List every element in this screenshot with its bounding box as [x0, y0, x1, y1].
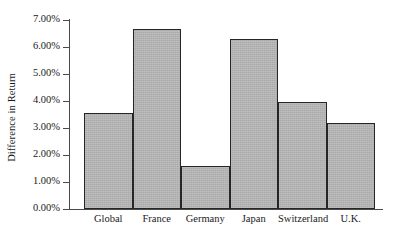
x-axis-label: Germany — [181, 213, 230, 226]
y-tick-label: 6.00% — [0, 41, 60, 52]
bar-chart: Difference in Return 7.00%6.00%5.00%4.00… — [0, 0, 398, 235]
bar-texture — [328, 124, 375, 208]
bar — [278, 102, 327, 209]
plot-area — [69, 20, 382, 209]
bar-texture — [134, 30, 181, 208]
x-axis-label: France — [133, 213, 182, 226]
bar — [327, 123, 376, 209]
y-tick-mark — [63, 209, 69, 210]
x-axis-line — [69, 209, 383, 210]
x-axis-label: Switzerland — [278, 213, 327, 226]
bar-texture — [279, 103, 326, 208]
bar — [181, 166, 230, 209]
y-axis-title: Difference in Return — [0, 0, 22, 235]
y-tick-label: 1.00% — [0, 176, 60, 187]
y-tick-label: 2.00% — [0, 149, 60, 160]
x-axis-label: Global — [84, 213, 133, 226]
y-tick-label: 5.00% — [0, 68, 60, 79]
bar — [84, 113, 133, 209]
y-tick-label: 7.00% — [0, 14, 60, 25]
bar-texture — [182, 167, 229, 208]
y-tick-label: 3.00% — [0, 122, 60, 133]
bar — [133, 29, 182, 209]
y-tick-label: 4.00% — [0, 95, 60, 106]
x-axis-label: U.K. — [327, 213, 376, 226]
bar-texture — [231, 40, 278, 208]
bar-texture — [85, 114, 132, 208]
x-axis-label: Japan — [230, 213, 279, 226]
y-tick-label: 0.00% — [0, 203, 60, 214]
bar — [230, 39, 279, 209]
